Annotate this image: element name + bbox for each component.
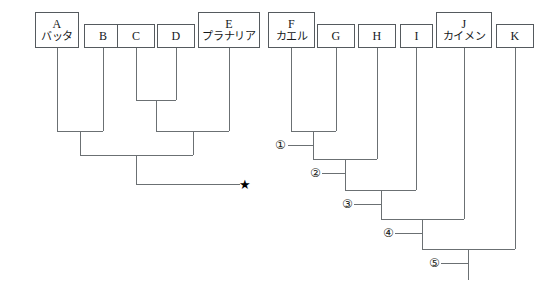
taxon-letter-h: H (373, 30, 382, 43)
star-marker: ★ (239, 178, 251, 191)
taxon-letter-b: B (99, 30, 107, 43)
taxon-box-g[interactable]: G (317, 24, 355, 48)
taxon-name-f: カエル (276, 31, 308, 43)
taxon-box-i[interactable]: I (400, 24, 433, 48)
node-label-n4[interactable]: ④ (383, 227, 394, 239)
taxon-box-f[interactable]: Fカエル (268, 12, 315, 48)
node-label-n5[interactable]: ⑤ (429, 257, 440, 269)
node-label-n1[interactable]: ① (275, 139, 286, 151)
taxon-letter-e: E (225, 18, 233, 31)
taxon-letter-i: I (414, 30, 418, 43)
taxon-box-d[interactable]: D (157, 24, 195, 48)
right-tree-lines (288, 48, 515, 280)
taxon-letter-g: G (332, 30, 341, 43)
taxon-box-a[interactable]: Aバッタ (35, 12, 79, 48)
left-tree-lines (57, 48, 240, 184)
taxon-box-h[interactable]: H (358, 24, 396, 48)
node-label-n2[interactable]: ② (310, 167, 321, 179)
taxon-box-k[interactable]: K (496, 24, 534, 48)
node-label-n3[interactable]: ③ (342, 198, 353, 210)
taxon-letter-j: J (462, 18, 467, 31)
taxon-letter-k: K (511, 30, 520, 43)
taxon-name-a: バッタ (41, 31, 73, 43)
taxon-letter-f: F (288, 18, 295, 31)
taxon-name-e: プラナリア (202, 31, 255, 43)
taxon-letter-a: A (53, 18, 62, 31)
taxon-letter-d: D (172, 30, 181, 43)
taxon-letter-c: C (132, 30, 140, 43)
cladogram-diagram: AバッタBCDEプラナリアFカエルGHIJカイメンK ①②③④⑤ ★ (0, 0, 555, 293)
taxon-box-e[interactable]: Eプラナリア (198, 12, 260, 48)
taxon-box-c[interactable]: C (117, 24, 155, 48)
taxon-box-j[interactable]: Jカイメン (436, 12, 492, 48)
taxon-name-j: カイメン (443, 31, 485, 43)
